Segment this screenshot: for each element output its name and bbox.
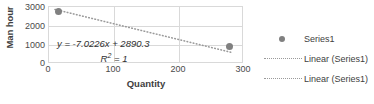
y-axis-tick-labels: 3000 2000 1000 0: [14, 0, 45, 104]
equation-text: y = -7.0226x + 2890.3: [57, 38, 197, 50]
trendline-equation-annotation: y = -7.0226x + 2890.3 R2 = 1: [57, 38, 197, 64]
legend-item-label: Linear (Series1): [304, 74, 368, 84]
chart-legend: Series1 Linear (Series1) Linear (Series1…: [262, 28, 374, 90]
legend-dotted-line-icon: [262, 72, 304, 86]
data-point-marker: [55, 8, 62, 15]
plot-area: y = -7.0226x + 2890.3 R2 = 1: [48, 6, 243, 63]
r-squared-text: R2 = 1: [57, 50, 197, 65]
data-point-marker: [226, 43, 233, 50]
x-tick-label: 300: [223, 64, 263, 74]
y-tick-label: 3000: [15, 2, 45, 12]
legend-item-label: Linear (Series1): [304, 54, 368, 64]
legend-item-series1[interactable]: Series1: [262, 31, 374, 47]
r-squared-value: = 1: [111, 53, 127, 64]
x-tick-label: 0: [28, 64, 68, 74]
chart-container: Man hour 3000 2000 1000 0 y = -7.0226x +…: [0, 0, 374, 104]
y-tick-label: 1000: [15, 40, 45, 50]
y-axis-title: Man hour: [4, 0, 15, 56]
legend-item-label: Series1: [304, 34, 335, 44]
legend-dotted-line-icon: [262, 52, 304, 66]
legend-marker-icon: [262, 32, 304, 46]
x-tick-label: 200: [158, 64, 198, 74]
legend-item-linear-series1-a[interactable]: Linear (Series1): [262, 51, 374, 67]
x-axis-title: Quantity: [48, 78, 244, 89]
legend-item-linear-series1-b[interactable]: Linear (Series1): [262, 71, 374, 87]
y-tick-label: 2000: [15, 21, 45, 31]
x-tick-label: 100: [93, 64, 133, 74]
